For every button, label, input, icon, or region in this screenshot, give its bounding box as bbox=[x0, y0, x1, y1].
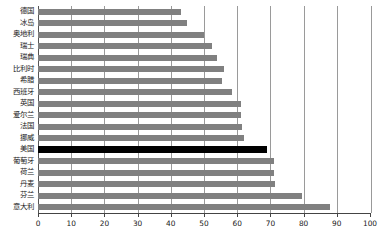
table-row bbox=[38, 202, 370, 214]
x-tick-label-50: 50 bbox=[192, 219, 216, 228]
category-label-意大利: 意大利 bbox=[0, 203, 34, 211]
category-label-法国: 法国 bbox=[0, 122, 34, 130]
x-tick-mark-90 bbox=[337, 213, 338, 217]
bar-荷兰 bbox=[38, 170, 274, 176]
category-label-荷兰: 荷兰 bbox=[0, 168, 34, 176]
bar-rows bbox=[38, 6, 370, 213]
bar-瑞典 bbox=[38, 55, 217, 61]
table-row bbox=[38, 6, 370, 18]
table-row bbox=[38, 190, 370, 202]
bar-意大利 bbox=[38, 204, 330, 210]
x-tick-label-30: 30 bbox=[126, 219, 150, 228]
x-tick-label-10: 10 bbox=[59, 219, 83, 228]
x-tick-mark-20 bbox=[104, 213, 105, 217]
x-tick-mark-0 bbox=[38, 213, 39, 217]
category-label-瑞典: 瑞典 bbox=[0, 53, 34, 61]
category-label-冰岛: 冰岛 bbox=[0, 19, 34, 27]
bar-葡萄牙 bbox=[38, 158, 274, 164]
category-label-西班牙: 西班牙 bbox=[0, 88, 34, 96]
category-label-希腊: 希腊 bbox=[0, 76, 34, 84]
table-row bbox=[38, 144, 370, 156]
bar-chart: 德国冰岛奥地利瑞士瑞典比利时希腊西班牙英国爱尔兰法国挪威美国葡萄牙荷兰丹麦芬兰意… bbox=[0, 0, 385, 240]
bar-冰岛 bbox=[38, 20, 187, 26]
category-label-芬兰: 芬兰 bbox=[0, 191, 34, 199]
bar-法国 bbox=[38, 124, 242, 130]
x-tick-label-100: 100 bbox=[358, 219, 382, 228]
table-row bbox=[38, 41, 370, 53]
x-tick-mark-100 bbox=[370, 213, 371, 217]
table-row bbox=[38, 98, 370, 110]
x-tick-label-0: 0 bbox=[26, 219, 50, 228]
table-row bbox=[38, 52, 370, 64]
bar-丹麦 bbox=[38, 181, 275, 187]
bar-比利时 bbox=[38, 66, 224, 72]
category-label-美国: 美国 bbox=[0, 145, 34, 153]
bar-挪威 bbox=[38, 135, 244, 141]
category-label-比利时: 比利时 bbox=[0, 65, 34, 73]
category-label-瑞士: 瑞士 bbox=[0, 42, 34, 50]
bar-爱尔兰 bbox=[38, 112, 241, 118]
bar-德国 bbox=[38, 9, 181, 15]
table-row bbox=[38, 156, 370, 168]
table-row bbox=[38, 75, 370, 87]
category-label-奥地利: 奥地利 bbox=[0, 30, 34, 38]
x-tick-label-40: 40 bbox=[159, 219, 183, 228]
x-tick-mark-80 bbox=[304, 213, 305, 217]
category-label-挪威: 挪威 bbox=[0, 134, 34, 142]
table-row bbox=[38, 121, 370, 133]
table-row bbox=[38, 64, 370, 76]
bar-西班牙 bbox=[38, 89, 232, 95]
bar-美国 bbox=[38, 146, 267, 153]
x-tick-mark-50 bbox=[204, 213, 205, 217]
x-tick-label-60: 60 bbox=[225, 219, 249, 228]
x-tick-mark-60 bbox=[237, 213, 238, 217]
table-row bbox=[38, 87, 370, 99]
x-tick-mark-40 bbox=[171, 213, 172, 217]
x-tick-mark-30 bbox=[138, 213, 139, 217]
bar-瑞士 bbox=[38, 43, 212, 49]
bar-芬兰 bbox=[38, 193, 302, 199]
bar-奥地利 bbox=[38, 32, 204, 38]
category-label-丹麦: 丹麦 bbox=[0, 180, 34, 188]
bar-英国 bbox=[38, 101, 241, 107]
table-row bbox=[38, 18, 370, 30]
x-tick-label-80: 80 bbox=[292, 219, 316, 228]
x-tick-label-90: 90 bbox=[325, 219, 349, 228]
x-tick-mark-10 bbox=[71, 213, 72, 217]
table-row bbox=[38, 110, 370, 122]
x-tick-label-20: 20 bbox=[92, 219, 116, 228]
category-axis-labels: 德国冰岛奥地利瑞士瑞典比利时希腊西班牙英国爱尔兰法国挪威美国葡萄牙荷兰丹麦芬兰意… bbox=[0, 6, 36, 213]
category-label-英国: 英国 bbox=[0, 99, 34, 107]
table-row bbox=[38, 29, 370, 41]
x-tick-label-70: 70 bbox=[258, 219, 282, 228]
table-row bbox=[38, 133, 370, 145]
table-row bbox=[38, 167, 370, 179]
table-row bbox=[38, 179, 370, 191]
category-label-德国: 德国 bbox=[0, 7, 34, 15]
category-label-爱尔兰: 爱尔兰 bbox=[0, 111, 34, 119]
bar-希腊 bbox=[38, 78, 222, 84]
x-tick-mark-70 bbox=[270, 213, 271, 217]
category-label-葡萄牙: 葡萄牙 bbox=[0, 157, 34, 165]
